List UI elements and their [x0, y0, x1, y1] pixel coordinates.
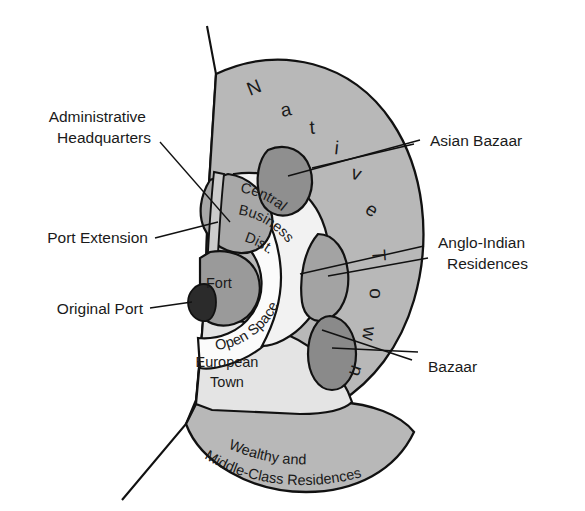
- town-letter-o: o: [366, 288, 387, 299]
- diagram-canvas: Central Business Dist. Open Space Fort E…: [0, 0, 585, 511]
- town-letter-t: T: [368, 249, 390, 262]
- callout-anglo-indian-residences: Anglo-Indian: [438, 234, 525, 251]
- callout-anglo-indian-residences-line2: Residences: [447, 255, 528, 272]
- callout-original-port: Original Port: [57, 300, 144, 317]
- label-european-town: European: [196, 354, 259, 370]
- label-fort: Fort: [206, 275, 232, 291]
- region-bazaar: [308, 316, 356, 390]
- callout-asian-bazaar: Asian Bazaar: [430, 132, 522, 149]
- callout-port-extension: Port Extension: [47, 229, 148, 246]
- callout-bazaar: Bazaar: [428, 358, 477, 375]
- callout-administrative-headquarters-line2: Headquarters: [57, 129, 151, 146]
- leader-original-port: [150, 302, 192, 308]
- label-european-town-line2: Town: [210, 374, 244, 390]
- callout-administrative-headquarters: Administrative: [49, 108, 146, 125]
- colonial-city-diagram: Central Business Dist. Open Space Fort E…: [0, 0, 585, 511]
